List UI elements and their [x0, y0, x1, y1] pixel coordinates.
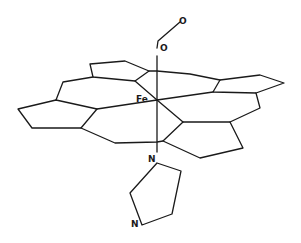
- dioxygen-ligand: O O: [157, 16, 187, 53]
- pyrrole-ring-left: [18, 100, 97, 128]
- bridge-right: [230, 93, 260, 122]
- nitrogen-distal-label: N: [131, 219, 139, 229]
- bridge-upper-left: [56, 77, 93, 100]
- fe-n-bond-lower-right: [157, 100, 183, 122]
- fe-n-bond-left: [97, 100, 157, 109]
- bridge-lower: [81, 128, 163, 143]
- pyrrole-ring-upper-left: [90, 61, 149, 81]
- iron-label: Fe: [136, 94, 148, 104]
- bridge-upper: [149, 71, 220, 80]
- pyrrole-ring-upper-right: [213, 75, 284, 93]
- porphyrin-ring: [18, 61, 284, 158]
- oxygen-terminal-label: O: [179, 16, 187, 26]
- imidazole-bonds: [130, 163, 181, 225]
- imidazole-ring: N N: [130, 154, 181, 229]
- pyrrole-ring-lower-right: [163, 122, 243, 158]
- nitrogen-proximal-label: N: [148, 154, 156, 164]
- heme-structure-diagram: O O Fe N N: [0, 0, 301, 243]
- oxygen-bound-label: O: [160, 43, 168, 53]
- fe-n-bond-upper-right: [157, 92, 213, 100]
